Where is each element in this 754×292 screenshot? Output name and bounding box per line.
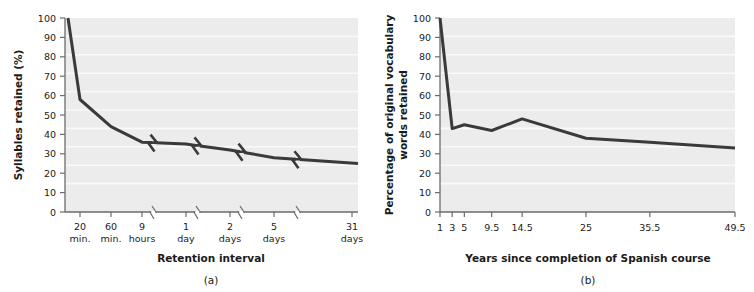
y-tick-label: 30 bbox=[44, 148, 56, 159]
y-axis-title: Syllables retained (%) bbox=[12, 50, 24, 181]
x-ticks bbox=[80, 212, 352, 217]
y-tick-label: 40 bbox=[44, 129, 56, 140]
x-tick-label-line1: 2 bbox=[227, 221, 233, 232]
x-tick-label-line2: days bbox=[263, 233, 285, 244]
y-tick-label: 70 bbox=[419, 71, 431, 82]
y-tick-label: 90 bbox=[419, 32, 431, 43]
x-tick-label-line1: 60 bbox=[105, 221, 117, 232]
y-tick-label: 100 bbox=[38, 13, 56, 24]
panel-caption: (a) bbox=[204, 274, 219, 286]
x-tick-label-line1: 20 bbox=[74, 221, 86, 232]
x-tick-label-line2: hours bbox=[129, 233, 156, 244]
y-tick-label: 70 bbox=[44, 71, 56, 82]
x-tick-label-line1: 9 bbox=[139, 221, 145, 232]
y-tick-label: 20 bbox=[44, 168, 56, 179]
x-tick-label: 1 bbox=[437, 222, 443, 233]
y-ticks bbox=[435, 18, 440, 212]
x-tick-label: 35.5 bbox=[639, 222, 660, 233]
chart-panel-b: 100 90 80 70 60 50 40 30 20 10 0 1359.51… bbox=[377, 0, 754, 292]
y-tick-label: 0 bbox=[425, 207, 431, 218]
x-tick-labels: 1359.514.52535.549.5 bbox=[437, 222, 746, 233]
y-tick-label: 80 bbox=[44, 51, 56, 62]
y-tick-label: 90 bbox=[44, 32, 56, 43]
y-axis-title-line2: words retained bbox=[397, 70, 409, 160]
y-axis-title-line1: Percentage of original vocabulary bbox=[383, 15, 395, 216]
chart-b-svg: 100 90 80 70 60 50 40 30 20 10 0 1359.51… bbox=[377, 0, 754, 292]
x-tick-label-line2: day bbox=[177, 233, 195, 244]
chart-a-svg: 100 90 80 70 60 50 40 30 20 10 0 bbox=[0, 0, 377, 292]
y-ticks bbox=[60, 18, 65, 212]
x-tick-label-line2: days bbox=[341, 233, 363, 244]
x-tick-label: 9.5 bbox=[484, 222, 499, 233]
x-tick-label-line2: days bbox=[219, 233, 241, 244]
x-tick-label: 25 bbox=[580, 222, 592, 233]
x-tick-label-line2: min. bbox=[101, 233, 122, 244]
y-tick-label: 60 bbox=[419, 90, 431, 101]
x-tick-label-line1: 5 bbox=[271, 221, 277, 232]
y-tick-label: 10 bbox=[419, 187, 431, 198]
x-ticks bbox=[440, 212, 735, 217]
y-tick-label: 10 bbox=[44, 187, 56, 198]
y-tick-label: 20 bbox=[419, 168, 431, 179]
x-tick-label: 14.5 bbox=[512, 222, 533, 233]
x-axis-title: Retention interval bbox=[157, 252, 265, 264]
x-tick-label: 5 bbox=[461, 222, 467, 233]
panel-caption: (b) bbox=[581, 274, 596, 286]
y-tick-label: 50 bbox=[419, 110, 431, 121]
y-tick-label: 80 bbox=[419, 51, 431, 62]
y-tick-label: 60 bbox=[44, 90, 56, 101]
x-tick-label-line1: 31 bbox=[346, 221, 358, 232]
x-tick-label: 49.5 bbox=[724, 222, 745, 233]
chart-panel-a: 100 90 80 70 60 50 40 30 20 10 0 bbox=[0, 0, 377, 292]
y-tick-label: 0 bbox=[50, 207, 56, 218]
figure-root: 100 90 80 70 60 50 40 30 20 10 0 bbox=[0, 0, 754, 292]
y-tick-label: 100 bbox=[413, 13, 431, 24]
x-axis-title: Years since completion of Spanish course bbox=[464, 252, 710, 264]
x-tick-labels: 20 min. 60 min. 9 hours 1 day 2 days 5 d… bbox=[70, 221, 364, 244]
x-tick-label-line1: 1 bbox=[183, 221, 189, 232]
y-tick-label: 50 bbox=[44, 110, 56, 121]
y-tick-label: 40 bbox=[419, 129, 431, 140]
x-tick-label: 3 bbox=[449, 222, 455, 233]
y-tick-label: 30 bbox=[419, 148, 431, 159]
x-tick-label-line2: min. bbox=[70, 233, 91, 244]
